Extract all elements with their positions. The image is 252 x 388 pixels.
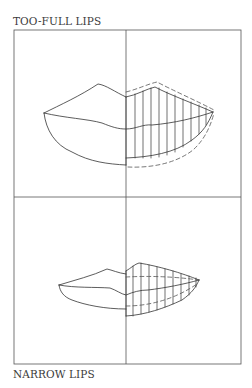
too-full-lips-drawing [44,82,214,167]
grid-frame [14,30,241,364]
narrow-lips-drawing [59,263,199,316]
panel-label-narrow-lips: NARROW LIPS [13,368,95,380]
lips-diagram [0,0,252,388]
